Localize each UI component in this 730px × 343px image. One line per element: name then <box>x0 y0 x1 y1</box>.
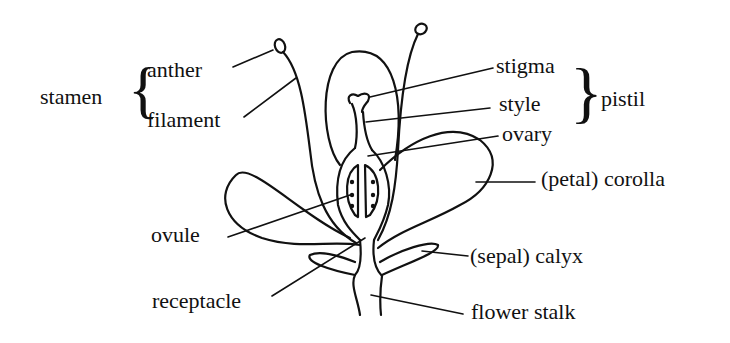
ovary-chamber-left <box>347 165 358 217</box>
right-anther <box>413 22 428 37</box>
ovule-label: ovule <box>151 224 200 246</box>
flower-stalk-label: flower stalk <box>471 301 575 323</box>
right-sepal <box>380 244 438 275</box>
anther-label: anther <box>147 59 202 81</box>
ovule-leader <box>228 195 350 237</box>
right-petal <box>378 132 493 248</box>
flower-stalk-leader <box>371 295 463 314</box>
stigma-label: stigma <box>496 55 555 77</box>
style-leader <box>366 108 490 122</box>
ovary-label: ovary <box>502 123 552 145</box>
style-left <box>352 104 357 148</box>
stalk-right <box>373 240 382 315</box>
filament-leader <box>244 78 296 117</box>
flower-diagram: stamen { anther filament stigma style ov… <box>0 0 730 343</box>
receptacle-label: receptacle <box>152 290 241 312</box>
receptacle-leader <box>272 238 365 296</box>
stalk-left <box>353 240 360 315</box>
left-sepal <box>309 253 355 275</box>
anther-leader <box>233 50 273 67</box>
left-anther <box>273 38 287 55</box>
filament-label: filament <box>147 109 220 131</box>
style-right <box>363 112 372 150</box>
ovary-leader <box>368 136 498 156</box>
stigma <box>349 94 369 112</box>
ovules <box>350 180 375 208</box>
calyx-label: (sepal) calyx <box>470 245 583 267</box>
pistil-group-label: pistil <box>601 88 645 110</box>
stigma-leader <box>370 68 493 97</box>
stamen-group-label: stamen <box>40 86 102 108</box>
corolla-label: (petal) corolla <box>541 168 665 190</box>
style-label: style <box>499 93 541 115</box>
right-filament <box>378 34 418 240</box>
pistil-brace-icon: } <box>570 58 603 126</box>
ovary-chamber-right <box>365 165 378 217</box>
ovary-outer <box>337 148 360 240</box>
